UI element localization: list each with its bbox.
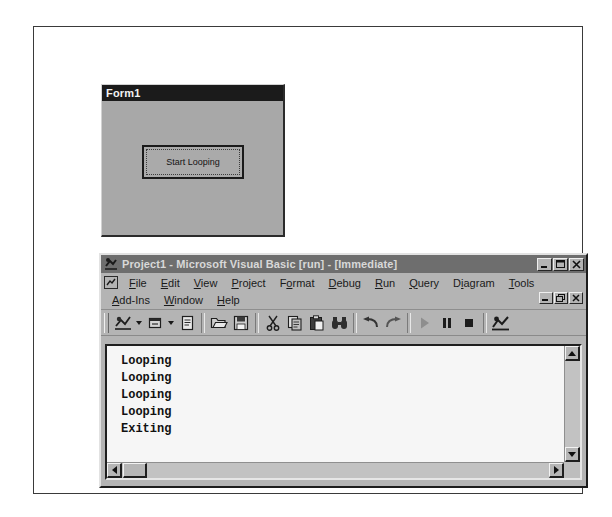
start-looping-button[interactable]: Start Looping: [142, 145, 244, 179]
maximize-button[interactable]: [553, 258, 568, 271]
undo-button[interactable]: [360, 312, 382, 333]
horizontal-scrollbar[interactable]: [107, 462, 564, 478]
immediate-window[interactable]: Looping Looping Looping Looping Exiting: [105, 344, 582, 480]
mdi-document-icon[interactable]: [104, 276, 118, 289]
end-button[interactable]: [458, 312, 480, 333]
menu-row-primary: File Edit View Project Format Debug Run …: [101, 274, 586, 291]
close-button[interactable]: [569, 258, 584, 271]
menu-help[interactable]: Help: [210, 294, 247, 306]
scroll-right-arrow-icon: [554, 466, 559, 474]
chevron-down-icon: [136, 321, 142, 325]
scroll-left-button[interactable]: [107, 463, 122, 478]
add-project-dropdown-arrow[interactable]: [134, 312, 144, 333]
immediate-line: Exiting: [121, 421, 564, 438]
menu-run[interactable]: Run: [368, 277, 402, 289]
menu-query[interactable]: Query: [402, 277, 446, 289]
toolbar-separator: [407, 313, 411, 333]
project-explorer-button[interactable]: [490, 312, 512, 333]
form1-title-text: Form1: [106, 87, 141, 99]
vb-toolbar: [101, 310, 586, 336]
menu-view[interactable]: View: [187, 277, 225, 289]
visual-basic-window[interactable]: Project1 - Microsoft Visual Basic [run] …: [99, 253, 588, 488]
add-form-dropdown-arrow[interactable]: [166, 312, 176, 333]
menu-format[interactable]: Format: [273, 277, 322, 289]
open-project-button[interactable]: [208, 312, 230, 333]
menu-project[interactable]: Project: [224, 277, 272, 289]
figure-frame: Form1 Start Looping Project1 - Microsoft…: [33, 26, 583, 494]
start-looping-button-label: Start Looping: [166, 157, 220, 167]
add-form-button[interactable]: [144, 312, 166, 333]
immediate-window-text[interactable]: Looping Looping Looping Looping Exiting: [107, 346, 564, 462]
immediate-line: Looping: [121, 404, 564, 421]
menu-editor-button[interactable]: [176, 312, 198, 333]
scroll-up-arrow-icon: [568, 351, 576, 356]
mdi-window-buttons: [538, 292, 583, 304]
vb-title-text: Project1 - Microsoft Visual Basic [run] …: [122, 258, 536, 270]
menu-diagram[interactable]: Diagram: [446, 277, 502, 289]
copy-button[interactable]: [284, 312, 306, 333]
form1-client-area: Start Looping: [102, 101, 283, 235]
menu-tools[interactable]: Tools: [502, 277, 542, 289]
immediate-line: Looping: [121, 370, 564, 387]
menu-debug[interactable]: Debug: [321, 277, 367, 289]
menu-add-ins[interactable]: Add-Ins: [105, 294, 157, 306]
scroll-left-arrow-icon: [112, 466, 117, 474]
toolbar-separator: [255, 313, 259, 333]
mdi-restore-button[interactable]: [554, 292, 568, 304]
break-button[interactable]: [436, 312, 458, 333]
scroll-down-arrow-icon: [568, 452, 576, 457]
form1-titlebar[interactable]: Form1: [102, 85, 283, 101]
horizontal-scroll-thumb[interactable]: [123, 463, 147, 478]
menu-row-secondary: Add-Ins Window Help: [101, 291, 586, 308]
cut-button[interactable]: [262, 312, 284, 333]
add-project-button[interactable]: [112, 312, 134, 333]
menu-file[interactable]: File: [122, 277, 154, 289]
menu-window[interactable]: Window: [157, 294, 210, 306]
start-button[interactable]: [414, 312, 436, 333]
minimize-button[interactable]: [537, 258, 552, 271]
toolbar-grip[interactable]: [104, 313, 109, 333]
toolbar-separator: [483, 313, 487, 333]
vb-menubar: File Edit View Project Format Debug Run …: [101, 273, 586, 310]
vb-titlebar[interactable]: Project1 - Microsoft Visual Basic [run] …: [101, 255, 586, 273]
scrollbar-corner: [564, 462, 580, 478]
scroll-down-button[interactable]: [565, 447, 580, 462]
immediate-line: Looping: [121, 387, 564, 404]
menu-edit[interactable]: Edit: [154, 277, 187, 289]
scroll-right-button[interactable]: [549, 463, 564, 478]
toolbar-separator: [353, 313, 357, 333]
scroll-up-button[interactable]: [565, 346, 580, 361]
save-project-button[interactable]: [230, 312, 252, 333]
chevron-down-icon: [168, 321, 174, 325]
paste-button[interactable]: [306, 312, 328, 333]
toolbar-separator: [201, 313, 205, 333]
mdi-close-button[interactable]: [569, 292, 583, 304]
redo-button[interactable]: [382, 312, 404, 333]
vertical-scrollbar[interactable]: [564, 346, 580, 462]
mdi-minimize-button[interactable]: [539, 292, 553, 304]
find-button[interactable]: [328, 312, 350, 333]
immediate-line: Looping: [121, 353, 564, 370]
visual-basic-icon: [104, 257, 118, 271]
form1-window[interactable]: Form1 Start Looping: [101, 84, 285, 237]
